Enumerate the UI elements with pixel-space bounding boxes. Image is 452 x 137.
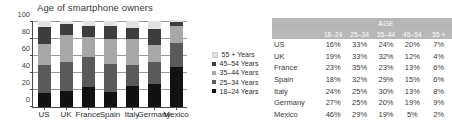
table-cell-value: 20%	[373, 97, 399, 109]
bar-segment	[38, 93, 51, 107]
age-distribution-table: AGE 18–2425–3435–4445–5455 + US16%33%24%…	[272, 18, 452, 120]
legend-item[interactable]: 18–24 Years	[212, 87, 258, 96]
bar-segment	[170, 43, 183, 68]
table-cell-value: 4%	[426, 51, 452, 63]
chart-legend: 55 + Years45–54 Years35–44 Years25–34 Ye…	[212, 50, 258, 96]
stacked-bar-chart: Age of smartphone owners 020406080100 US…	[0, 0, 262, 137]
y-tick-label: 20	[22, 79, 30, 87]
table-column-header[interactable]: 55 +	[426, 29, 452, 39]
table-row: Germany27%25%20%19%9%	[272, 97, 452, 109]
table-column-header[interactable]: 18–24	[320, 29, 346, 39]
y-tick-label: 0	[26, 96, 30, 104]
legend-item[interactable]: 35–44 Years	[212, 68, 258, 77]
table-row: Spain18%32%29%15%6%	[272, 74, 452, 86]
bar-segment	[148, 45, 161, 62]
legend-item-label: 35–44 Years	[220, 69, 259, 76]
table-row: Italy24%25%30%13%8%	[272, 85, 452, 97]
table-column-header[interactable]: 35–44	[373, 29, 399, 39]
x-tick-label: Spain	[100, 111, 120, 119]
table-cell-value: 13%	[399, 85, 425, 97]
table-cell-value: 23%	[373, 62, 399, 74]
y-tick-label: 40	[22, 62, 30, 70]
table-cell-value: 24%	[320, 85, 346, 97]
table-cell-value: 35%	[346, 62, 372, 74]
bar-segment	[104, 92, 117, 107]
bar-segment	[126, 28, 139, 39]
table-corner-cell	[272, 18, 320, 29]
bar-segment	[126, 39, 139, 65]
bar-segment	[38, 27, 51, 44]
bar-segment	[60, 62, 73, 90]
legend-swatch-icon	[212, 71, 216, 75]
stacked-bar[interactable]	[104, 21, 117, 107]
bar-segment	[82, 37, 95, 57]
table-row: France23%35%23%13%6%	[272, 62, 452, 74]
bar-segment	[104, 64, 117, 92]
stacked-bar[interactable]	[148, 21, 161, 107]
bar-segment	[60, 35, 73, 63]
bar-segment	[148, 29, 161, 45]
table-cell-value: 12%	[399, 51, 425, 63]
legend-item[interactable]: 25–34 Years	[212, 78, 258, 87]
table-cell-value: 32%	[373, 51, 399, 63]
data-table: AGE 18–2425–3435–4445–5455 + US16%33%24%…	[272, 18, 452, 120]
table-cell-value: 8%	[426, 85, 452, 97]
bar-group: USUKFranceSpainItalyGermanyMexico	[33, 22, 187, 107]
legend-item-label: 25–34 Years	[220, 79, 259, 86]
x-tick-label: UK	[60, 111, 71, 119]
table-cell-value: 25%	[346, 97, 372, 109]
x-tick-label: France	[76, 111, 101, 119]
bar-segment	[82, 26, 95, 37]
table-body: US16%33%24%20%7%UK19%33%32%12%4%France23…	[272, 39, 452, 120]
table-cell-value: 13%	[399, 62, 425, 74]
table-row-label: Germany	[272, 97, 320, 109]
table-cell-value: 33%	[346, 39, 372, 51]
table-cell-value: 24%	[373, 39, 399, 51]
table-cell-value: 19%	[320, 51, 346, 63]
plot-area: 020406080100 USUKFranceSpainItalyGermany…	[32, 22, 187, 108]
stacked-bar[interactable]	[60, 21, 73, 107]
legend-swatch-icon	[212, 80, 216, 84]
bar-segment	[126, 65, 139, 87]
stacked-bar[interactable]	[126, 21, 139, 107]
bar-segment	[60, 24, 73, 34]
table-row-label: US	[272, 39, 320, 51]
figure-container: Age of smartphone owners 020406080100 US…	[0, 0, 452, 137]
y-tick-label: 60	[22, 45, 30, 53]
bar-segment	[148, 62, 161, 84]
legend-item[interactable]: 55 + Years	[212, 50, 258, 59]
table-cell-value: 5%	[399, 109, 425, 121]
stacked-bar[interactable]	[82, 21, 95, 107]
table-group-header-row: AGE	[272, 18, 452, 29]
table-cell-value: 2%	[426, 109, 452, 121]
table-cell-value: 29%	[346, 109, 372, 121]
legend-item-label: 18–24 Years	[220, 88, 259, 95]
table-cell-value: 18%	[320, 74, 346, 86]
bar-segment	[104, 39, 117, 64]
table-cell-value: 29%	[373, 74, 399, 86]
bar-slot: UK	[55, 22, 77, 107]
table-row: UK19%33%32%12%4%	[272, 51, 452, 63]
legend-item[interactable]: 45–54 Years	[212, 59, 258, 68]
table-rowlabel-header	[272, 29, 320, 39]
legend-swatch-icon	[212, 89, 216, 93]
table-cell-value: 7%	[426, 39, 452, 51]
table-cell-value: 30%	[373, 85, 399, 97]
table-column-header[interactable]: 45–54	[399, 29, 425, 39]
table-cell-value: 16%	[320, 39, 346, 51]
table-column-header[interactable]: 25–34	[346, 29, 372, 39]
stacked-bar[interactable]	[170, 20, 183, 107]
table-cell-value: 19%	[399, 97, 425, 109]
table-head: AGE 18–2425–3435–4445–5455 +	[272, 18, 452, 39]
bar-slot: Italy	[121, 22, 143, 107]
y-tick-label: 100	[17, 11, 30, 19]
table-row-label: Spain	[272, 74, 320, 86]
bar-segment	[170, 26, 183, 42]
bar-segment	[104, 26, 117, 39]
table-cell-value: 19%	[373, 109, 399, 121]
stacked-bar[interactable]	[38, 21, 51, 107]
bar-segment	[126, 86, 139, 107]
table-column-header-row: 18–2425–3435–4445–5455 +	[272, 29, 452, 39]
table-row-label: France	[272, 62, 320, 74]
table-cell-value: 32%	[346, 74, 372, 86]
